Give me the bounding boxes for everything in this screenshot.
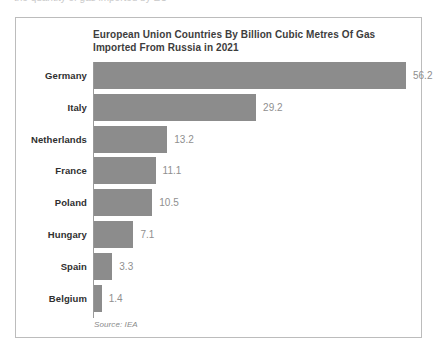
value-label-netherlands: 13.2: [174, 126, 193, 153]
category-label-germany: Germany: [16, 62, 87, 89]
category-label-poland: Poland: [16, 189, 87, 216]
source-note: Source: IEA: [94, 320, 138, 329]
bar-row: Netherlands13.2: [16, 126, 421, 153]
category-label-netherlands: Netherlands: [16, 126, 87, 153]
category-label-spain: Spain: [16, 253, 87, 280]
plot-area: Germany56.2Italy29.2Netherlands13.2Franc…: [16, 60, 421, 318]
value-label-france: 11.1: [163, 157, 182, 184]
chart-card: European Union Countries By Billion Cubi…: [15, 17, 422, 338]
value-label-spain: 3.3: [119, 253, 133, 280]
category-label-france: France: [16, 157, 87, 184]
bar-spain: [94, 253, 112, 280]
value-label-poland: 10.5: [159, 189, 178, 216]
bar-row: Belgium1.4: [16, 285, 421, 312]
bar-poland: [94, 189, 152, 216]
value-label-belgium: 1.4: [109, 285, 123, 312]
chart-title: European Union Countries By Billion Cubi…: [93, 29, 403, 54]
value-label-hungary: 7.1: [140, 221, 154, 248]
bar-hungary: [94, 221, 133, 248]
bar-germany: [94, 62, 406, 89]
bar-netherlands: [94, 126, 167, 153]
bar-row: Hungary7.1: [16, 221, 421, 248]
value-label-germany: 56.2: [413, 62, 432, 89]
bar-row: France11.1: [16, 157, 421, 184]
bar-italy: [94, 94, 256, 121]
category-label-italy: Italy: [16, 94, 87, 121]
bar-row: Spain3.3: [16, 253, 421, 280]
category-label-belgium: Belgium: [16, 285, 87, 312]
value-label-italy: 29.2: [263, 94, 282, 121]
clipped-top-text: the quantity of gas imported by EU: [14, 0, 167, 3]
bar-belgium: [94, 285, 102, 312]
bar-row: Germany56.2: [16, 62, 421, 89]
bar-row: Italy29.2: [16, 94, 421, 121]
category-label-hungary: Hungary: [16, 221, 87, 248]
bar-row: Poland10.5: [16, 189, 421, 216]
clipped-top-text-strip: the quantity of gas imported by EU: [0, 0, 437, 8]
bar-france: [94, 157, 156, 184]
